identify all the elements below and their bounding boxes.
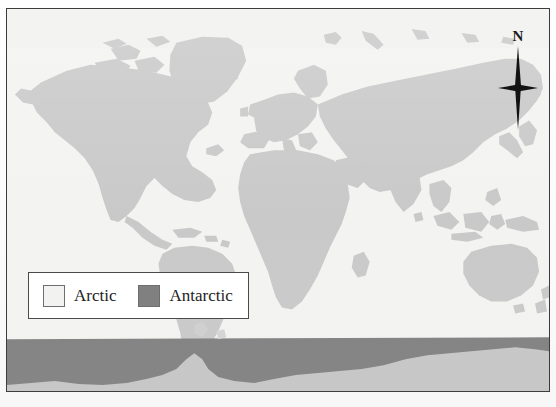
map-frame (6, 8, 550, 392)
legend-item-antarctic: Antarctic (138, 285, 232, 307)
map-figure: N Arctic Antarctic (0, 0, 556, 407)
arctic-swatch (43, 285, 65, 307)
scan-shading (7, 9, 549, 391)
world-map-canvas (7, 9, 549, 391)
legend-label-antarctic: Antarctic (169, 286, 232, 306)
legend-item-arctic: Arctic (43, 285, 116, 307)
map-legend: Arctic Antarctic (28, 272, 249, 319)
legend-label-arctic: Arctic (74, 286, 116, 306)
antarctic-swatch (138, 285, 160, 307)
